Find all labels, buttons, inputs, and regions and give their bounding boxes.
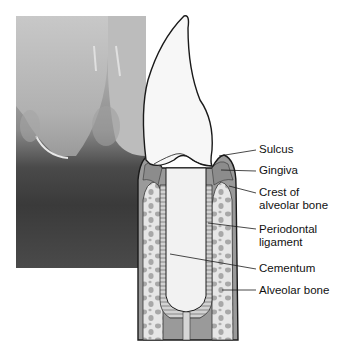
label-sulcus: Sulcus [259, 143, 294, 156]
label-line: ligament [259, 236, 317, 249]
label-line: Crest of [259, 186, 328, 199]
label-gingiva: Gingiva [259, 164, 298, 177]
label-alveolar-bone: Alveolar bone [259, 284, 329, 297]
label-cementum: Cementum [259, 262, 315, 275]
crown-outline [143, 16, 212, 166]
label-line: Periodontal [259, 223, 317, 236]
label-line: alveolar bone [259, 199, 328, 212]
label-crest-of-alveolar-bone: Crest of alveolar bone [259, 186, 328, 211]
label-periodontal-ligament: Periodontal ligament [259, 223, 317, 248]
